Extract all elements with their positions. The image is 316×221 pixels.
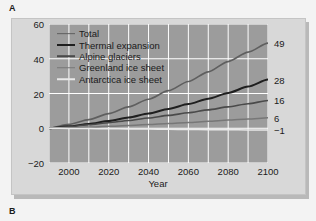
legend-item-label: Total: [79, 28, 99, 39]
y-tick-label: 60: [33, 24, 44, 35]
y-tick-label: 40: [33, 59, 44, 70]
legend-item-label: Thermal expansion: [79, 40, 160, 51]
legend-item-label: Antarctica ice sheet: [79, 74, 162, 85]
series-end-label: 16: [274, 100, 285, 111]
legend-item: Total: [57, 28, 189, 39]
legend-line-swatch: [57, 51, 75, 62]
plot-area: TotalThermal expansionAlpine glaciersGre…: [49, 24, 268, 163]
legend-item: Thermal expansion: [57, 39, 189, 50]
x-axis-label: Year: [0, 178, 316, 189]
x-tick-label: 2020: [98, 166, 119, 177]
legend-item: Alpine glaciers: [57, 51, 189, 62]
legend-item: Antarctica ice sheet: [57, 74, 189, 85]
legend-line-swatch: [57, 40, 75, 51]
legend-item-label: Alpine glaciers: [79, 51, 141, 62]
legend-line-swatch: [57, 62, 75, 73]
legend-line-swatch: [57, 74, 75, 85]
series-end-label: 49: [274, 43, 285, 54]
series-end-label: −1: [274, 130, 285, 141]
x-tick-label: 2040: [138, 166, 159, 177]
panel-label-a: A: [9, 3, 16, 13]
legend-item-label: Greenland ice sheet: [79, 62, 164, 73]
x-tick-label: 2100: [257, 166, 278, 177]
legend-item: Greenland ice sheet: [57, 62, 189, 73]
x-tick-label: 2000: [58, 166, 79, 177]
y-tick-label: −20: [28, 163, 44, 174]
y-tick-label: 0: [39, 128, 44, 139]
chart-legend: TotalThermal expansionAlpine glaciersGre…: [57, 28, 189, 85]
panel-label-b: B: [9, 206, 16, 216]
figure-container: A B 6040200−20 200020202040206020802100 …: [0, 0, 316, 221]
x-tick-label: 2060: [178, 166, 199, 177]
x-tick-label: 2080: [218, 166, 239, 177]
series-end-label: 28: [274, 80, 285, 91]
legend-line-swatch: [57, 28, 75, 39]
y-tick-label: 20: [33, 94, 44, 105]
